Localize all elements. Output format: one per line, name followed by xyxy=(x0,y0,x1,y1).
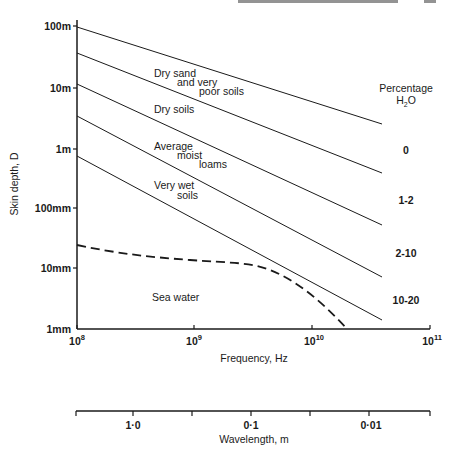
y-tick-labels: 100m 10m 1m 100mm 10mm 1mm xyxy=(35,20,71,335)
legend-title-h2o: H2O xyxy=(396,94,416,108)
soil-lines xyxy=(77,27,382,320)
y-axis-title: Skin depth, D xyxy=(8,152,20,215)
legend-value-1-2: 1-2 xyxy=(398,194,413,206)
y-tick-10mm: 10mm xyxy=(41,262,71,274)
legend-title: Percentage xyxy=(379,82,433,94)
line-dry-sand xyxy=(77,27,382,124)
y-tick-100m: 100m xyxy=(44,20,71,32)
wl-tick-0.01: 0·01 xyxy=(360,419,381,431)
y-tick-10m: 10m xyxy=(50,82,71,94)
annot-sea-water: Sea water xyxy=(152,291,200,303)
wl-tick-0.1: 0·1 xyxy=(243,419,258,431)
x-tick-1e8: 108 xyxy=(69,333,85,347)
legend-value-10-20: 10-20 xyxy=(393,294,420,306)
annot-dry-sand-3: poor soils xyxy=(199,85,244,97)
sea-water-curve xyxy=(77,245,347,329)
x-tick-labels: 108 109 1010 1011 xyxy=(69,333,442,347)
annotations: Dry sand and very poor soils Dry soils A… xyxy=(152,67,244,303)
wavelength-axis-title: Wavelength, m xyxy=(219,433,289,445)
y-tick-100mm: 100mm xyxy=(35,202,71,214)
legend-value-0: 0 xyxy=(403,144,409,156)
x-tick-1e10: 1010 xyxy=(304,333,324,347)
wavelength-axis xyxy=(76,411,430,416)
y-tick-1mm: 1mm xyxy=(46,323,71,335)
x-axis-title: Frequency, Hz xyxy=(220,352,288,364)
annot-very-wet-2: soils xyxy=(177,189,198,201)
wavelength-tick-labels: 1·0 0·1 0·01 xyxy=(125,419,381,431)
annot-moist-3: loams xyxy=(199,158,227,170)
line-wettest xyxy=(77,156,382,320)
x-tick-1e9: 109 xyxy=(186,333,202,347)
legend-value-2-10: 2-10 xyxy=(395,247,416,259)
annot-dry-soils: Dry soils xyxy=(154,103,194,115)
y-tick-1m: 1m xyxy=(56,143,71,155)
x-tick-1e11: 1011 xyxy=(422,333,442,347)
wl-tick-1: 1·0 xyxy=(125,419,140,431)
skin-depth-chart: 100m 10m 1m 100mm 10mm 1mm Skin depth, D… xyxy=(0,0,454,465)
legend: Percentage H2O 0 1-2 2-10 10-20 xyxy=(379,82,433,306)
